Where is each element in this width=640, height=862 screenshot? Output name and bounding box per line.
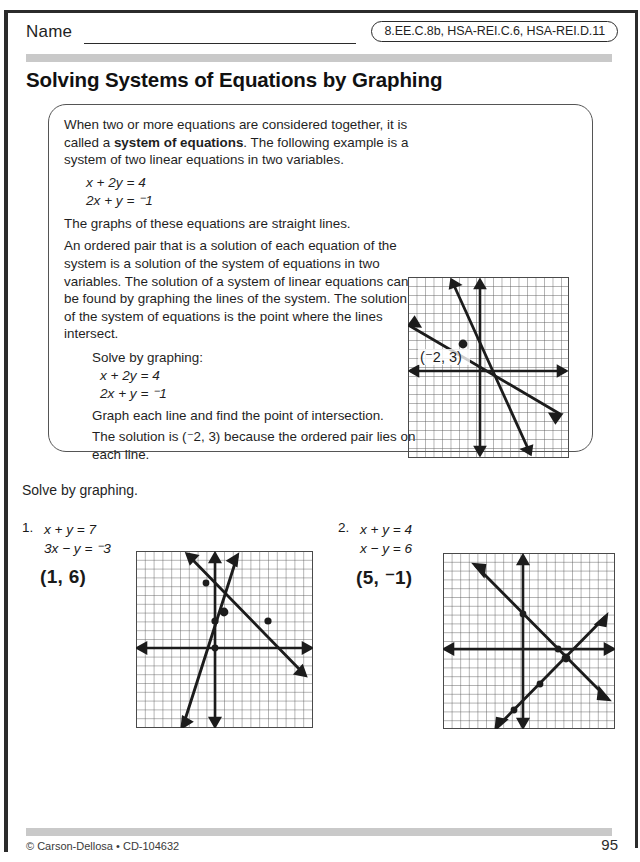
problem-2-graph[interactable] (443, 553, 615, 729)
problem-2-equation-2: x − y = 6 (360, 539, 412, 558)
example-solve-block: Solve by graphing: x + 2y = 4 2x + y = ⁻… (92, 348, 416, 463)
name-label: Name (26, 22, 72, 41)
problem-1-graph-svg (136, 551, 313, 728)
section-instruction: Solve by graphing. (22, 482, 138, 498)
example-text-block: When two or more equations are considere… (64, 116, 416, 463)
example-paragraph-2: The graphs of these equations are straig… (64, 215, 416, 233)
footer-copyright: © Carson-Dellosa • CD-104632 (26, 840, 179, 852)
standards-badge: 8.EE.C.8b, HSA-REI.C.6, HSA-REI.D.11 (371, 21, 618, 42)
problem-2-answer[interactable]: (5, ⁻1) (356, 566, 412, 589)
example-solve-label: Solve by graphing: (92, 348, 416, 367)
plot-dot (264, 617, 271, 624)
footer-divider-band (26, 828, 612, 836)
example-equation-2: 2x + y = ⁻1 (86, 192, 416, 210)
worksheet-page: Name 8.EE.C.8b, HSA-REI.C.6, HSA-REI.D.1… (0, 0, 640, 862)
problem-1-equation-1: x + y = 7 (44, 520, 111, 539)
example-solve-equation-1: x + 2y = 4 (100, 367, 416, 385)
example-graph: (⁻2, 3) (408, 277, 569, 458)
example-equation-1: x + 2y = 4 (86, 174, 416, 192)
example-paragraph-1: When two or more equations are considere… (64, 116, 416, 169)
plot-dot (520, 611, 527, 618)
problem-1-equations: x + y = 7 3x − y = ⁻3 (44, 520, 111, 558)
problem-1-graph[interactable] (136, 551, 313, 728)
example-graph-svg: (⁻2, 3) (408, 277, 569, 458)
example-paragraph-4: Graph each line and find the point of in… (92, 406, 416, 425)
problem-1-number: 1. (22, 520, 33, 535)
problem-2-graph-svg (443, 553, 615, 729)
page-title: Solving Systems of Equations by Graphing (26, 68, 442, 92)
example-solve-equation-2: 2x + y = ⁻1 (100, 385, 416, 403)
problem-1-equation-2: 3x − y = ⁻3 (44, 539, 111, 558)
intersection-point (459, 340, 468, 349)
plot-dot (555, 646, 562, 653)
problem-2-number: 2. (338, 520, 349, 535)
footer-page-number: 95 (601, 836, 618, 853)
intersection-point (562, 654, 571, 663)
example-solution-label: (⁻2, 3) (420, 349, 462, 365)
example-paragraph-5: The solution is (⁻2, 3) because the orde… (92, 428, 416, 463)
plot-dot (212, 645, 219, 652)
plot-dot (211, 617, 218, 624)
name-write-line[interactable] (84, 43, 356, 44)
example-paragraph-3: An ordered pair that is a solution of ea… (64, 237, 416, 343)
problem-2-equations: x + y = 4 x − y = 6 (360, 520, 412, 558)
plot-dot (537, 681, 544, 688)
plot-dot (511, 707, 518, 714)
example-p1-bold: system of equations (114, 135, 243, 150)
header-divider-band (26, 54, 612, 62)
name-field-row: Name (26, 22, 356, 48)
intersection-point (220, 608, 229, 617)
problem-1-answer[interactable]: (1, 6) (40, 566, 86, 588)
plot-dot (203, 580, 210, 587)
problem-2-equation-1: x + y = 4 (360, 520, 412, 539)
